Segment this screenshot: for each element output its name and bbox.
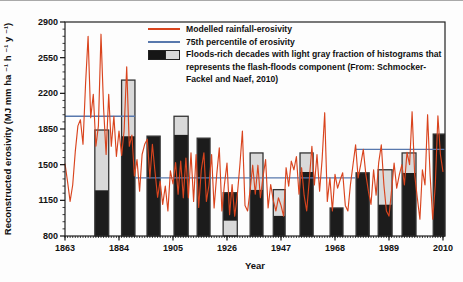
- legend-item-floods: Floods-rich decades with light gray frac…: [148, 48, 448, 86]
- y-tick-label: 1150: [38, 195, 58, 205]
- flood-decade-bar-segment: [95, 190, 109, 236]
- y-tick-label: 2200: [38, 88, 58, 98]
- x-tick-label: 1926: [217, 243, 237, 253]
- x-tick-label: 2010: [433, 243, 453, 253]
- y-tick-label: 800: [43, 231, 58, 241]
- x-tick-label: 1905: [163, 243, 183, 253]
- red-line-swatch-icon: [148, 23, 180, 35]
- x-tick-label: 1968: [325, 243, 345, 253]
- legend-label-floods: Floods-rich decades with light gray frac…: [186, 48, 448, 86]
- x-tick-label: 1947: [271, 243, 291, 253]
- y-tick-label: 2900: [38, 17, 58, 27]
- legend-item-modelled: Modelled rainfall-erosivity: [148, 23, 448, 36]
- erosivity-figure: 8001150150018502200255029001863188419051…: [0, 0, 463, 282]
- flood-decade-bar-segment: [174, 135, 188, 236]
- x-tick-label: 1863: [55, 243, 75, 253]
- x-tick-label: 1884: [109, 243, 129, 253]
- legend-label-modelled: Modelled rainfall-erosivity: [186, 23, 448, 36]
- chart-legend: Modelled rainfall-erosivity 75th percent…: [148, 23, 448, 86]
- x-axis-title: Year: [245, 260, 265, 271]
- histogram-swatch-icon: [148, 48, 180, 60]
- legend-item-percentile: 75th percentile of erosivity: [148, 36, 448, 49]
- flood-decade-bar-segment: [300, 172, 313, 236]
- flood-decade-bar-segment: [273, 216, 285, 236]
- y-axis-title: Reconstructed erosivity (MJ mm ha ⁻¹ h ⁻…: [2, 23, 13, 235]
- flood-decade-bar-segment: [330, 208, 343, 236]
- x-tick-label: 1989: [379, 243, 399, 253]
- legend-label-percentile: 75th percentile of erosivity: [186, 36, 448, 49]
- y-tick-label: 1850: [38, 124, 58, 134]
- y-tick-label: 2550: [38, 53, 58, 63]
- flood-decade-bar-segment: [174, 116, 188, 134]
- flood-decade-bar-segment: [223, 221, 237, 236]
- y-tick-label: 1500: [38, 160, 58, 170]
- blue-line-swatch-icon: [148, 36, 180, 48]
